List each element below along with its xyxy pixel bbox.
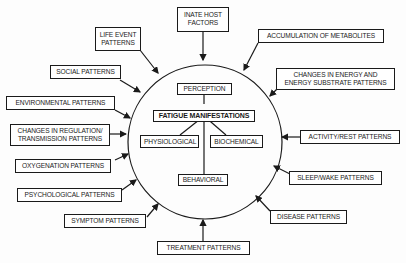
disease-label: DISEASE PATTERNS — [277, 213, 340, 220]
factor-environmental: ENVIRONMENTAL PATTERNS — [6, 96, 115, 110]
fatigue-manifestations-label: FATIGUE MANIFESTATIONS — [159, 112, 250, 119]
factor-metabolites: ACCUMULATION OF METABOLITES — [258, 29, 384, 43]
psychological-label: PSYCHOLOGICAL PATTERNS — [24, 191, 114, 198]
biochemical-label: BIOCHEMICAL — [214, 138, 258, 145]
factor-oxygenation: OXYGENATION PATTERNS — [15, 159, 111, 173]
life-event-line1: LIFE EVENT — [99, 31, 137, 39]
factor-activity-rest: ACTIVITY/REST PATTERNS — [300, 130, 400, 144]
factor-treatment: TREATMENT PATTERNS — [157, 241, 250, 255]
metabolites-label: ACCUMULATION OF METABOLITES — [267, 32, 375, 39]
fatigue-framework-diagram: PERCEPTION FATIGUE MANIFESTATIONS PHYSIO… — [0, 0, 406, 263]
factor-symptom: SYMPTOM PATTERNS — [64, 214, 146, 228]
factor-innate-host: INATE HOSTFACTORS — [177, 7, 229, 32]
factor-psychological: PSYCHOLOGICAL PATTERNS — [17, 188, 122, 202]
regulation-line2: TRANSMISSION PATTERNS — [14, 135, 106, 143]
factor-sleep-wake: SLEEP/WAKE PATTERNS — [289, 171, 382, 185]
treatment-label: TREATMENT PATTERNS — [167, 244, 241, 251]
energy-line1: CHANGES IN ENERGY AND — [280, 71, 391, 79]
factor-energy: CHANGES IN ENERGY ANDENERGY SUBSTRATE PA… — [276, 68, 395, 90]
node-perception: PERCEPTION — [177, 83, 232, 95]
environmental-label: ENVIRONMENTAL PATTERNS — [16, 99, 106, 106]
sleep-wake-label: SLEEP/WAKE PATTERNS — [297, 174, 373, 181]
symptom-label: SYMPTOM PATTERNS — [71, 217, 139, 224]
factor-regulation: CHANGES IN REGULATION/TRANSMISSION PATTE… — [10, 124, 110, 146]
node-physiological: PHYSIOLOGICAL — [140, 135, 199, 148]
innate-host-line2: FACTORS — [181, 19, 225, 27]
factor-social: SOCIAL PATTERNS — [50, 65, 121, 79]
node-fatigue-manifestations: FATIGUE MANIFESTATIONS — [153, 110, 255, 122]
factor-life-event: LIFE EVENTPATTERNS — [95, 27, 141, 51]
oxygenation-label: OXYGENATION PATTERNS — [22, 162, 104, 169]
perception-label: PERCEPTION — [184, 85, 226, 92]
activity-rest-label: ACTIVITY/REST PATTERNS — [309, 133, 392, 140]
node-behavioral: BEHAVIORAL — [178, 174, 228, 186]
social-label: SOCIAL PATTERNS — [56, 68, 114, 75]
energy-line2: ENERGY SUBSTRATE PATTERNS — [280, 79, 391, 87]
physiological-label: PHYSIOLOGICAL — [144, 138, 196, 145]
node-biochemical: BIOCHEMICAL — [210, 135, 263, 148]
behavioral-label: BEHAVIORAL — [183, 176, 224, 183]
factor-disease: DISEASE PATTERNS — [270, 210, 347, 224]
life-event-line2: PATTERNS — [99, 39, 137, 47]
regulation-line1: CHANGES IN REGULATION/ — [14, 127, 106, 135]
innate-host-line1: INATE HOST — [181, 11, 225, 19]
